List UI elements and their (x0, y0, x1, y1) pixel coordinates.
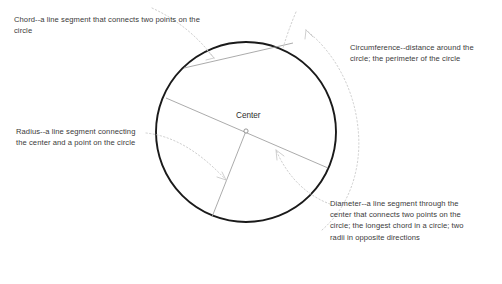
chord-annotation-label: Chord--a line segment that connects two … (14, 14, 204, 36)
center-point-label: Center (236, 111, 261, 121)
radius-pointer-arrowhead (217, 172, 226, 180)
diameter-annotation-label: Diameter--a line segment through the cen… (330, 198, 480, 243)
diameter-pointer-arc (276, 150, 330, 204)
chord-pointer-arc-secondary (283, 12, 296, 48)
center-point-marker (244, 129, 248, 133)
circle-diagram: Chord--a line segment that connects two … (0, 0, 502, 284)
radius-segment (212, 131, 246, 217)
radius-annotation-label: Radius--a line segment connecting the ce… (16, 126, 146, 148)
circumference-annotation-label: Circumference--distance around the circl… (350, 42, 495, 64)
radius-pointer-arc (146, 133, 226, 180)
